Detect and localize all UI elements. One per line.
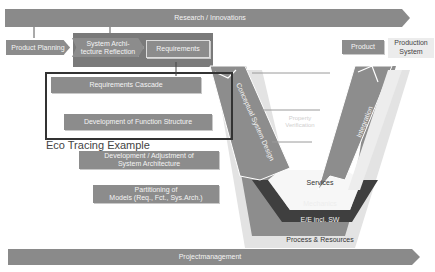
partitioning-label: Partitioning of Models (Req., Fct., Sys.…	[109, 186, 202, 202]
requirements-label: Requirements	[156, 45, 200, 53]
requirements-cascade-step: Requirements Cascade	[51, 77, 201, 93]
product-label: Product	[351, 43, 375, 51]
property-verification-label: Property Verification	[270, 115, 330, 129]
product-planning-label: Product Planning	[11, 44, 64, 52]
requirements-step: Requirements	[146, 40, 210, 58]
system-architecture-step: Development / Adjustment of System Archi…	[79, 151, 219, 169]
partitioning-step: Partitioning of Models (Req., Fct., Sys.…	[93, 185, 219, 203]
system-architecture-reflection-step: System Archi- tecture Reflection	[72, 38, 144, 57]
production-system-box: Production System	[388, 38, 434, 58]
requirements-cascade-label: Requirements Cascade	[89, 81, 162, 89]
services-label: Services	[290, 179, 350, 186]
system-architecture-reflection-label: System Archi- tecture Reflection	[81, 40, 135, 56]
system-architecture-label: Development / Adjustment of System Archi…	[104, 152, 194, 168]
function-structure-step: Development of Function Structure	[64, 114, 212, 130]
process-resources-label: Process & Resources	[270, 236, 370, 243]
projectmanagement-label: Projectmanagement	[160, 253, 260, 261]
function-structure-label: Development of Function Structure	[84, 118, 192, 126]
product-planning-step: Product Planning	[6, 40, 70, 55]
eco-tracing-caption: Eco Tracing Example	[46, 139, 150, 151]
product-box: Product	[342, 40, 384, 54]
ee-incl-sw-label: E/E incl. SW	[290, 216, 350, 223]
mechanics-label: Mechanics	[290, 200, 350, 207]
research-innovations-label: Research / Innovations	[150, 14, 270, 22]
